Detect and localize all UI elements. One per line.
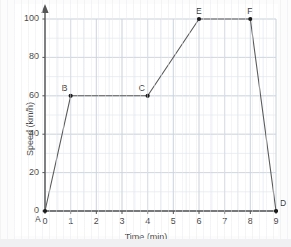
point-label-B: B [62, 83, 68, 93]
chart-plot-card: 0123456789 020406080100 ABCEFD Time (min… [14, 4, 278, 236]
axis-tick-marks [42, 19, 276, 214]
y-tick-label-100: 100 [14, 13, 39, 23]
x-tick-label-6: 6 [189, 216, 209, 226]
speed-time-graph-screenshot: 0123456789 020406080100 ABCEFD Time (min… [0, 0, 291, 247]
point-label-F: F [247, 6, 252, 16]
y-axis-title: Speed (km/h) [25, 79, 35, 179]
x-tick-label-9: 9 [266, 216, 286, 226]
y-tick-label-80: 80 [14, 51, 39, 61]
x-tick-label-2: 2 [86, 216, 106, 226]
chart-axes [41, 4, 278, 215]
point-label-C: C [139, 83, 145, 93]
point-label-A: A [35, 214, 41, 224]
point-label-D: D [280, 198, 286, 208]
x-tick-label-1: 1 [61, 216, 81, 226]
y-axis-title-wrapper: Speed (km/h) [22, 80, 36, 180]
minor-gridlines [45, 19, 276, 211]
point-label-E: E [196, 6, 202, 16]
x-tick-label-8: 8 [240, 216, 260, 226]
x-tick-label-7: 7 [215, 216, 235, 226]
speed-time-line-chart [14, 4, 278, 236]
x-tick-label-4: 4 [138, 216, 158, 226]
x-tick-label-3: 3 [112, 216, 132, 226]
x-tick-label-5: 5 [163, 216, 183, 226]
bottom-edge-band [0, 239, 291, 247]
